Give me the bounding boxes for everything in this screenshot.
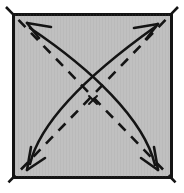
diagram-canvas (0, 0, 184, 193)
origami-fold-diagram: Fold diagram: square sheet with two diag… (0, 0, 184, 193)
